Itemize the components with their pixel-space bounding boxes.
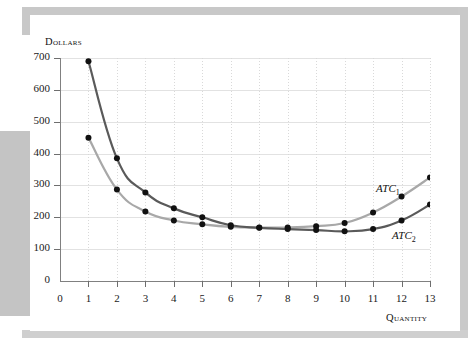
x-tick-mark <box>430 281 431 287</box>
x-tick-label: 8 <box>278 292 298 304</box>
x-tick-mark <box>174 281 175 287</box>
y-tick-label: 500 <box>0 114 50 126</box>
y-tick-label: 100 <box>0 241 50 253</box>
y-tick: 100 <box>0 241 50 253</box>
y-tick: 300 <box>0 177 50 189</box>
y-axis-title: Dollars <box>45 36 82 47</box>
y-tick: 700 <box>0 50 50 62</box>
curve-label-subscript: 2 <box>412 235 416 244</box>
data-point <box>256 225 262 231</box>
data-point <box>370 210 376 216</box>
data-point <box>285 226 291 232</box>
y-tick-label: 0 <box>0 273 50 285</box>
x-tick-mark <box>402 281 403 287</box>
data-point <box>399 217 405 223</box>
curve-label-atc1: ATC1 <box>376 182 400 197</box>
x-tick-mark <box>259 281 260 287</box>
y-tick: 600 <box>0 82 50 94</box>
y-tick: 0 <box>0 273 50 285</box>
x-tick-mark <box>345 281 346 287</box>
y-tick-label: 400 <box>0 146 50 158</box>
frame-bottom-edge <box>22 330 468 338</box>
x-tick-label: 6 <box>221 292 241 304</box>
x-tick-mark <box>117 281 118 287</box>
data-point <box>142 189 148 195</box>
chart-curves <box>60 58 430 281</box>
curve-label-atc2: ATC2 <box>392 229 416 244</box>
x-axis-title: Quantity <box>386 312 427 323</box>
data-point <box>85 58 91 64</box>
x-tick-label: 11 <box>363 292 383 304</box>
figure-panel: Dollars Quantity 0100200300400500600700 … <box>0 0 476 345</box>
x-tick-label: 13 <box>420 292 440 304</box>
data-point <box>114 155 120 161</box>
x-tick-label: 0 <box>50 292 70 304</box>
data-point <box>171 205 177 211</box>
curve-label-subscript: 1 <box>396 188 400 197</box>
data-point <box>342 220 348 226</box>
x-tick-label: 3 <box>135 292 155 304</box>
y-tick-label: 200 <box>0 209 50 221</box>
x-tick-mark <box>202 281 203 287</box>
x-tick-mark <box>373 281 374 287</box>
x-tick-label: 7 <box>249 292 269 304</box>
x-tick-label: 9 <box>306 292 326 304</box>
y-tick-label: 700 <box>0 50 50 62</box>
x-tick-label: 1 <box>78 292 98 304</box>
y-tick: 200 <box>0 209 50 221</box>
gridline-vertical <box>430 58 431 281</box>
data-point <box>142 209 148 215</box>
x-tick-mark <box>231 281 232 287</box>
x-tick-label: 2 <box>107 292 127 304</box>
x-axis-line <box>60 281 430 282</box>
data-point <box>313 227 319 233</box>
x-tick-mark <box>88 281 89 287</box>
x-tick-label: 5 <box>192 292 212 304</box>
data-point <box>342 228 348 234</box>
data-point <box>114 187 120 193</box>
x-tick-mark <box>316 281 317 287</box>
y-tick: 500 <box>0 114 50 126</box>
x-tick-mark <box>288 281 289 287</box>
x-tick-label: 4 <box>164 292 184 304</box>
data-point <box>199 221 205 227</box>
data-point <box>171 217 177 223</box>
data-point <box>199 214 205 220</box>
x-tick-label: 12 <box>392 292 412 304</box>
data-point <box>228 222 234 228</box>
x-tick-mark <box>145 281 146 287</box>
side-panel <box>0 131 30 316</box>
y-tick-label: 300 <box>0 177 50 189</box>
x-tick-label: 10 <box>335 292 355 304</box>
curve-atc2 <box>88 61 430 231</box>
y-tick-label: 600 <box>0 82 50 94</box>
data-point <box>85 135 91 141</box>
data-point <box>370 226 376 232</box>
y-tick: 400 <box>0 146 50 158</box>
